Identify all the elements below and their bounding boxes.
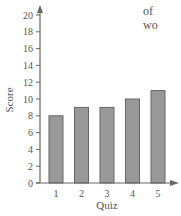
x-tick-label: 1 bbox=[54, 188, 59, 199]
y-tick-label: 18 bbox=[23, 26, 33, 37]
x-tick-label: 2 bbox=[79, 188, 84, 199]
bars-group bbox=[49, 91, 165, 183]
y-tick-label: 8 bbox=[28, 110, 33, 121]
y-tick-label: 12 bbox=[23, 77, 33, 88]
cropped-text-line-1: of bbox=[143, 4, 153, 19]
y-tick-label: 4 bbox=[28, 144, 33, 155]
y-tick-label: 20 bbox=[23, 10, 33, 21]
y-axis-arrow-icon bbox=[37, 5, 43, 13]
bar-quiz-4 bbox=[126, 99, 140, 183]
y-axis-title: Score bbox=[3, 87, 15, 112]
x-axis-arrow-icon bbox=[170, 180, 179, 186]
x-tick-label: 5 bbox=[156, 188, 161, 199]
y-tick-label: 16 bbox=[23, 43, 33, 54]
x-axis-title: Quiz bbox=[96, 199, 118, 211]
y-tick-label: 10 bbox=[23, 94, 33, 105]
y-tick-label: 0 bbox=[28, 178, 33, 189]
y-tick-label: 6 bbox=[28, 127, 33, 138]
bar-quiz-5 bbox=[151, 91, 165, 183]
y-axis: 02468101214161820 bbox=[23, 5, 43, 189]
bar-quiz-3 bbox=[100, 107, 114, 183]
bar-quiz-1 bbox=[49, 116, 63, 183]
bar-quiz-2 bbox=[75, 107, 89, 183]
cropped-text-line-2: wo bbox=[143, 18, 158, 33]
x-axis: 12345 bbox=[36, 180, 179, 199]
x-tick-label: 3 bbox=[105, 188, 110, 199]
x-tick-label: 4 bbox=[130, 188, 135, 199]
y-tick-label: 14 bbox=[23, 60, 33, 71]
y-tick-label: 2 bbox=[28, 161, 33, 172]
